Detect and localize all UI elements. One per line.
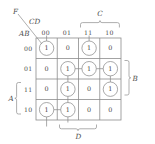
kmap-cell-r0c2: 1 xyxy=(84,45,94,51)
kmap-cell-r3c0: 1 xyxy=(42,107,52,113)
kmap-cell-r3c1: 1 xyxy=(63,107,73,113)
column-group-label-cd: CD xyxy=(29,18,40,25)
bracket-label-d: D xyxy=(76,133,82,140)
row-group-label-ab: AB xyxy=(19,30,29,37)
kmap-cell-r3c3: 0 xyxy=(105,107,115,113)
row-header-2: 11 xyxy=(24,87,32,93)
bracket-label-b: B xyxy=(133,75,138,82)
column-header-2: 11 xyxy=(84,30,92,36)
row-header-1: 01 xyxy=(24,66,32,72)
row-header-3: 10 xyxy=(24,107,32,113)
kmap-cell-r0c3: 0 xyxy=(105,45,115,51)
kmap-cell-r1c3: 1 xyxy=(105,66,115,72)
kmap-cell-r2c1: 1 xyxy=(63,86,73,92)
bracket-left-a xyxy=(15,83,21,115)
kmap-cell-r1c0: 0 xyxy=(42,66,52,72)
row-header-0: 00 xyxy=(24,46,32,52)
kmap-cell-r0c1: 0 xyxy=(63,45,73,51)
kmap-cell-r1c1: 1 xyxy=(63,66,73,72)
kmap-cell-r2c3: 1 xyxy=(105,86,115,92)
column-header-0: 00 xyxy=(42,30,50,36)
kmap-cell-r0c0: 1 xyxy=(42,45,52,51)
function-label-f: F xyxy=(13,8,18,15)
column-header-1: 01 xyxy=(63,30,71,36)
kmap-cell-r3c2: 0 xyxy=(84,107,94,113)
karnaugh-map-diagram: F CD AB 00 01 11 10 00 01 11 10 C B D A … xyxy=(0,0,155,144)
kmap-cell-r2c2: 0 xyxy=(84,86,94,92)
bracket-right-b xyxy=(125,61,131,96)
bracket-label-a: A xyxy=(9,95,14,102)
kmap-cell-r1c2: 1 xyxy=(84,66,94,72)
column-header-3: 10 xyxy=(105,30,113,36)
bracket-bottom-d xyxy=(60,125,97,131)
bracket-label-c: C xyxy=(97,10,103,17)
bracket-top-c xyxy=(81,21,120,28)
kmap-cell-r2c0: 0 xyxy=(42,86,52,92)
